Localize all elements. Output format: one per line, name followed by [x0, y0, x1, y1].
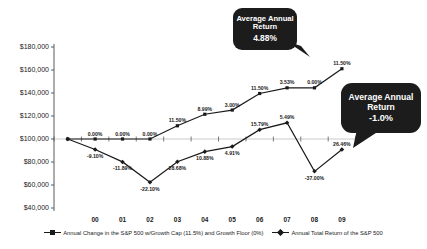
data-point-marker-square — [94, 137, 97, 140]
callout-title: Average Annual Return — [343, 92, 419, 112]
y-axis-label: $140,000 — [20, 89, 49, 96]
callout-title: Average Annual Return — [235, 15, 295, 33]
x-axis-label: 05 — [229, 216, 237, 223]
data-point-marker-square — [313, 86, 316, 89]
data-label: 0.00% — [143, 131, 158, 137]
data-point-marker-diamond — [93, 147, 98, 152]
callout-value: -1.0% — [369, 113, 393, 124]
legend-label: Annual Total Return of the S&P 500 — [291, 230, 382, 236]
legend-marker-square-icon — [44, 229, 61, 236]
y-axis-label: $100,000 — [20, 135, 49, 142]
data-label: -11.89% — [113, 165, 132, 171]
data-point-marker-square — [340, 67, 343, 70]
y-axis-label: $80,000 — [24, 158, 49, 165]
y-axis-label: $180,000 — [20, 43, 49, 50]
data-point-marker-square — [285, 86, 288, 89]
x-axis-label: 06 — [256, 216, 264, 223]
series-line-square — [68, 69, 342, 139]
data-label: 4.91% — [225, 150, 240, 156]
chart-canvas: $180,000$160,000$140,000$120,000$100,000… — [0, 0, 427, 249]
data-point-marker-square — [121, 137, 124, 140]
y-axis-label: $120,000 — [20, 112, 49, 119]
data-point-marker-square — [258, 92, 261, 95]
data-label: 0.00% — [115, 131, 130, 137]
y-axis-label: $160,000 — [20, 66, 49, 73]
data-point-marker-square — [176, 124, 179, 127]
x-axis-label: 07 — [283, 216, 291, 223]
data-point-marker-square — [148, 137, 151, 140]
callout-average-annual-return-sp500: Average Annual Return -1.0% — [341, 83, 421, 133]
data-label: 15.79% — [251, 121, 269, 127]
x-axis-label: 09 — [338, 216, 346, 223]
legend-marker-diamond-icon — [272, 229, 289, 236]
data-point-marker-square — [203, 113, 206, 116]
chart-legend: Annual Change in the S&P 500 w/Growth Ca… — [0, 229, 427, 236]
data-label: 8.99% — [197, 106, 212, 112]
x-axis-label: 02 — [146, 216, 154, 223]
data-label: -22.10% — [140, 186, 160, 192]
y-axis-label: $40,000 — [24, 204, 49, 211]
data-label: 26.46% — [333, 141, 351, 147]
data-label: 11.50% — [169, 117, 187, 123]
data-label: 11.50% — [251, 85, 269, 91]
x-axis-label: 08 — [311, 216, 319, 223]
data-label: -9.10% — [87, 153, 104, 159]
legend-label: Annual Change in the S&P 500 w/Growth Ca… — [63, 230, 263, 236]
data-label: 0.00% — [307, 79, 322, 85]
data-point-marker-diamond — [203, 149, 208, 154]
data-label: 11.50% — [333, 60, 351, 66]
data-label: 3.53% — [280, 79, 295, 85]
x-axis-label: 01 — [119, 216, 127, 223]
data-point-marker-square — [231, 108, 234, 111]
data-label: 10.88% — [196, 155, 214, 161]
legend-item-capped-series: Annual Change in the S&P 500 w/Growth Ca… — [44, 229, 263, 236]
x-axis-label: 03 — [174, 216, 182, 223]
data-label: -37.00% — [305, 175, 325, 181]
x-axis-label: 04 — [201, 216, 209, 223]
data-label: 28.68% — [169, 165, 187, 171]
x-axis-label: 00 — [92, 216, 100, 223]
data-point-marker-diamond — [285, 121, 290, 126]
data-label: 0.00% — [88, 131, 103, 137]
data-label: 3.00% — [225, 102, 240, 108]
y-axis-label: $60,000 — [24, 181, 49, 188]
legend-item-total-return-series: Annual Total Return of the S&P 500 — [272, 229, 382, 236]
data-label: 5.49% — [280, 114, 295, 120]
callout-average-annual-return-capped: Average Annual Return 4.88% — [233, 8, 297, 50]
callout-value: 4.88% — [253, 33, 277, 43]
